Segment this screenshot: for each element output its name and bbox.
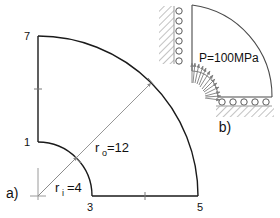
bottom-support-hatching bbox=[216, 106, 274, 117]
inner-radius-value: =4 bbox=[67, 180, 82, 195]
figure-container: 7 1 3 5 r o =12 r i =4 a) bbox=[0, 0, 280, 218]
engineering-figure: 7 1 3 5 r o =12 r i =4 a) bbox=[0, 0, 280, 218]
inner-radius-subscript: i bbox=[62, 188, 64, 198]
outer-radius-value: =12 bbox=[107, 140, 129, 155]
outer-radius-base: r bbox=[95, 140, 100, 155]
inner-radius-base: r bbox=[55, 180, 60, 195]
panel-a-caption: a) bbox=[6, 185, 18, 201]
bottom-roller-supports bbox=[219, 99, 269, 105]
left-support-hatching bbox=[159, 6, 174, 64]
node-label-3: 3 bbox=[87, 201, 93, 213]
node-label-5: 5 bbox=[197, 201, 203, 213]
node-label-7: 7 bbox=[24, 30, 30, 42]
left-roller-supports bbox=[176, 8, 182, 64]
pressure-label: P=100MPa bbox=[199, 51, 259, 65]
node-label-1: 1 bbox=[24, 136, 30, 148]
inner-radius-dimension: r i =4 bbox=[55, 180, 82, 198]
panel-b-caption: b) bbox=[219, 119, 231, 135]
panel-b-inner-arc bbox=[192, 71, 218, 97]
midside-tick-inner-arc bbox=[75, 156, 81, 163]
pressure-arrows bbox=[192, 63, 221, 100]
outer-radius-dimension: r o =12 bbox=[95, 140, 129, 158]
